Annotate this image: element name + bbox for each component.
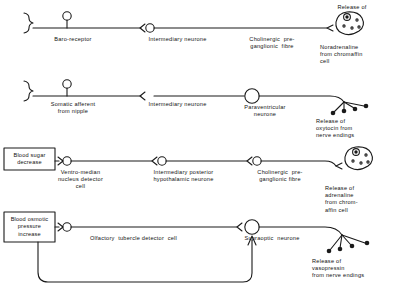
detector-cell-body-icon: [63, 223, 71, 231]
nerve-ending-bouton-icon: [350, 244, 355, 249]
relay-cell-body-icon: [146, 24, 154, 32]
relay-cell-body-icon: [158, 157, 166, 165]
paraventricular-neurone-icon: [245, 89, 259, 103]
granule-icon: [343, 25, 345, 27]
label-somatic-afferent: Somatic afferent from nipple: [28, 101, 118, 115]
granule-icon: [352, 160, 354, 162]
nerve-ending-bouton-icon: [365, 241, 370, 246]
label-intermediary-neurone-1: Intermediary neurone: [130, 36, 225, 43]
granule-icon: [358, 26, 360, 28]
granule-icon: [351, 27, 353, 29]
nerve-ending-bouton-icon: [338, 247, 343, 252]
synapse-arrow-icon: [140, 24, 145, 32]
label-vasopressin-release: Release of vasopressin from nerve ending…: [312, 258, 400, 280]
pathway-blood-sugar: [4, 147, 372, 170]
nerve-ending-bouton-icon: [364, 104, 369, 109]
pathway-baroreceptor: [24, 12, 363, 35]
terminal-arrow-icon: [327, 25, 333, 31]
granule-icon: [365, 154, 367, 156]
label-release-of-1: Release of: [315, 4, 389, 11]
label-baroreceptor: Baro-receptor: [33, 36, 113, 43]
chromaffin-nucleus-icon: [354, 150, 357, 153]
label-blood-osmotic-increase: Blood osmotic pressure increase: [4, 216, 55, 238]
label-intermediary-neurone-2: Intermediary neurone: [130, 101, 225, 108]
synapse-arrow-icon: [247, 157, 252, 165]
detector-cell-body-icon: [63, 157, 71, 165]
nerve-ending-bouton-icon: [353, 107, 358, 112]
nerve-ending-bouton-icon: [327, 249, 332, 254]
label-supraoptic-neurone: Supraoptic neurone: [232, 235, 312, 242]
granule-icon: [367, 161, 369, 163]
receptor-brace-icon: [24, 81, 33, 101]
receptor-cell-body-icon: [63, 80, 71, 88]
label-posterior-hypothalamic-neurone: Intermediary posterior hypothalamic neur…: [131, 169, 236, 183]
preganglionic-cell-body-icon: [253, 157, 261, 165]
label-paraventricular-neurone: Paraventricular neurone: [228, 104, 302, 118]
label-adrenaline-release: Release of adrenaline from chrom- affin …: [325, 185, 400, 214]
efferent-axon-line: [259, 227, 342, 235]
nerve-ending-bouton-icon: [342, 109, 347, 114]
granule-icon: [360, 162, 362, 164]
chromaffin-nucleus-icon: [345, 15, 348, 18]
synapse-arrow-icon: [152, 157, 157, 165]
label-olfactory-tubercle-detector: Olfactory tubercle detector cell: [66, 235, 201, 242]
receptor-brace-icon: [24, 13, 33, 33]
efferent-axon-line: [261, 161, 336, 166]
label-cholinergic-fibre-2: Cholinergic pre- ganglionic fibre: [238, 169, 322, 183]
label-oxytocin-release: Release of oxytocin from nerve endings: [316, 118, 400, 140]
nerve-ending-bouton-icon: [331, 111, 336, 116]
receptor-cell-body-icon: [63, 12, 71, 20]
supraoptic-neurone-icon: [245, 220, 259, 234]
label-blood-sugar-decrease: Blood sugar decrease: [4, 152, 55, 167]
synapse-arrow-icon: [140, 92, 145, 100]
label-ventromedian-detector: Ventro-median nucleus detector cell: [38, 169, 123, 191]
label-noradrenaline-release: Noradrenaline from chromaffin cell: [320, 44, 400, 66]
label-cholinergic-fibre-1: Cholinergic pre- ganglionic fibre: [228, 36, 316, 50]
terminal-arrow-icon: [336, 163, 342, 169]
synapse-arrow-icon: [237, 223, 242, 231]
granule-icon: [356, 19, 358, 21]
efferent-axon-line: [259, 96, 344, 102]
feedback-loop-line: [38, 240, 252, 282]
